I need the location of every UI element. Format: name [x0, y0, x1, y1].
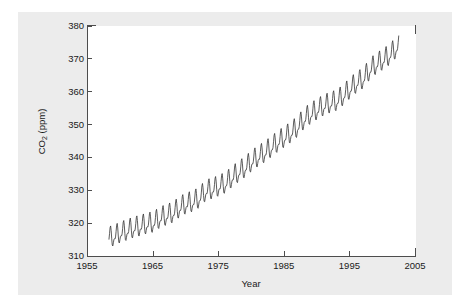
- y-tick-mark: [87, 256, 92, 257]
- y-tick-label: 370: [68, 54, 84, 64]
- y-tick-mark: [87, 190, 92, 191]
- axis-bottom-right-stub-h: [406, 256, 416, 257]
- x-tick-mark: [349, 251, 350, 256]
- x-tick-label: 2005: [404, 261, 425, 271]
- x-tick-label: 1985: [273, 261, 294, 271]
- x-tick-label: 1975: [208, 261, 229, 271]
- y-axis-label: CO2 (ppm): [36, 72, 47, 192]
- axis-top-right-stub: [415, 25, 416, 34]
- plot-area: [87, 26, 416, 257]
- y-tick-mark: [87, 157, 92, 158]
- y-tick-label: 360: [68, 87, 84, 97]
- x-tick-mark: [153, 251, 154, 256]
- x-tick-mark: [218, 251, 219, 256]
- y-tick-label: 320: [68, 218, 84, 228]
- y-tick-mark: [87, 91, 92, 92]
- x-tick-mark: [284, 251, 285, 256]
- x-tick-label: 1965: [142, 261, 163, 271]
- figure-background: 310320330340350360370380 195519651975198…: [18, 12, 452, 295]
- x-tick-label: 1955: [76, 261, 97, 271]
- x-axis-label: Year: [87, 278, 415, 289]
- y-tick-mark: [87, 58, 92, 59]
- x-tick-label: 1995: [339, 261, 360, 271]
- y-tick-label: 340: [68, 152, 84, 162]
- y-tick-label: 350: [68, 120, 84, 130]
- y-tick-mark: [87, 26, 92, 27]
- y-tick-mark: [87, 124, 92, 125]
- y-tick-label: 380: [68, 21, 84, 31]
- y-tick-label: 330: [68, 185, 84, 195]
- y-tick-mark: [87, 223, 92, 224]
- co2-line-series: [88, 26, 416, 256]
